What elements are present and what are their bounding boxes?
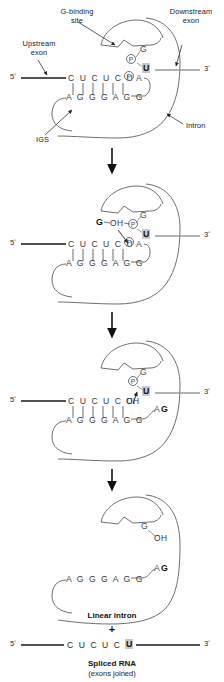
product-three-prime: 3ʹ bbox=[204, 639, 210, 648]
panel2-phosphate-backbone: P bbox=[124, 237, 134, 247]
panel1-five-prime: 5ʹ bbox=[10, 72, 16, 81]
linear-intron-caption: Linear intron bbox=[0, 611, 224, 620]
spliced-rna-caption: Spliced RNA bbox=[0, 659, 224, 668]
panel4-intron-5end-g: G bbox=[161, 563, 168, 573]
product-joined-base-u: U bbox=[125, 639, 133, 649]
panel3-five-prime: 5ʹ bbox=[10, 395, 16, 404]
panel3-intron-5end-g: G bbox=[161, 404, 168, 414]
exons-joined-caption: (exons joined) bbox=[0, 669, 224, 678]
panel1-guanosine: G bbox=[140, 44, 147, 54]
panel2-phosphate: P bbox=[128, 219, 138, 229]
panel1-three-prime: 3ʹ bbox=[204, 64, 210, 73]
panel3-three-prime: 3ʹ bbox=[204, 387, 210, 396]
product-sequence: C U C U C U bbox=[67, 640, 133, 650]
panel1-top-strand-tail: A bbox=[136, 73, 142, 83]
panel3-top-strand: C U C U C U bbox=[68, 396, 134, 406]
downstream-exon-label-line2: exon bbox=[183, 16, 199, 25]
panel4-guanosine-oh: OH bbox=[154, 533, 167, 543]
panel2-top-strand-tail: A bbox=[136, 239, 142, 249]
panel2-guanosine: G bbox=[140, 210, 147, 220]
panel2-three-prime: 3ʹ bbox=[204, 230, 210, 239]
product-five-prime: 5ʹ bbox=[10, 639, 16, 648]
panel2-free-guanosine-oh: OH bbox=[110, 218, 123, 228]
igs-label: IGS bbox=[36, 136, 49, 145]
plus-sign: + bbox=[0, 623, 224, 635]
panel3-splice-base-u: U bbox=[142, 386, 150, 396]
panel3-phosphate: P bbox=[128, 376, 138, 386]
panel1-igs-strand: A G G G A G G bbox=[66, 92, 144, 102]
panel1-splice-base-u: U bbox=[142, 63, 150, 73]
upstream-exon-label-line2: exon bbox=[31, 48, 47, 57]
panel2-splice-base-u: U bbox=[142, 229, 150, 239]
intron-label: Intron bbox=[186, 122, 206, 131]
panel3-guanosine: G bbox=[140, 367, 147, 377]
figure-canvas: G-binding site Upstream exon Downstream … bbox=[0, 0, 224, 682]
panel3-top-strand-oh: OH bbox=[126, 396, 139, 406]
panel-4-vector bbox=[52, 495, 180, 624]
panel2-five-prime: 5ʹ bbox=[10, 238, 16, 247]
upstream-exon-label: Upstream exon bbox=[8, 40, 70, 57]
g-binding-site-label: G-binding site bbox=[48, 8, 106, 25]
panel2-igs-strand: A G G G A G G bbox=[66, 258, 144, 268]
panel3-intron-5end-a: A bbox=[154, 404, 160, 414]
g-binding-site-label-line2: site bbox=[71, 16, 83, 25]
panel1-phosphate: P bbox=[126, 54, 136, 64]
panel4-guanosine: G bbox=[141, 521, 148, 531]
panel2-free-guanosine: G bbox=[96, 217, 103, 227]
panel4-intron-5end-a: A bbox=[154, 563, 160, 573]
panel3-igs-strand: A G G G A G G bbox=[66, 415, 144, 425]
panel1-phosphate-backbone: P bbox=[124, 71, 134, 81]
panel4-igs-strand: A G G G A G G bbox=[66, 574, 144, 584]
downstream-exon-label: Downstream exon bbox=[158, 8, 224, 25]
